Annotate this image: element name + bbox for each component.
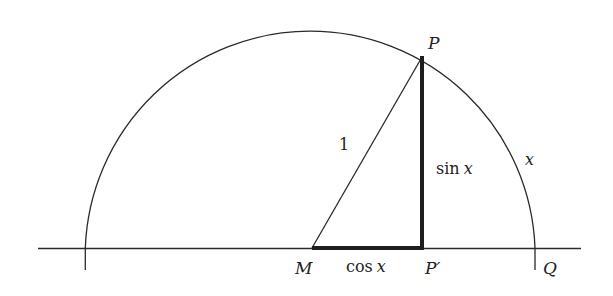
cos-text: cos: [346, 257, 373, 276]
label-P-prime: P′: [424, 258, 440, 278]
unit-circle-diagram: P 1 sinx x M cosx P′ Q: [0, 0, 613, 296]
label-arc-x: x: [525, 150, 534, 169]
label-P: P: [427, 33, 440, 53]
sin-text: sin: [436, 159, 460, 178]
label-radius-1: 1: [339, 135, 349, 154]
radius-line-MP: [312, 57, 422, 248]
sin-var: x: [464, 159, 473, 178]
label-sin-x: sinx: [436, 159, 473, 178]
semicircle-arc: [85, 31, 535, 270]
cos-var: x: [377, 257, 386, 276]
label-M: M: [294, 258, 313, 278]
label-Q: Q: [543, 258, 557, 278]
label-cos-x: cosx: [346, 257, 386, 276]
